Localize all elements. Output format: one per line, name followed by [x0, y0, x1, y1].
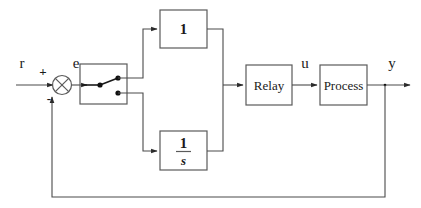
- wire-feedback: [52, 85, 385, 197]
- relay-block-label: Relay: [254, 78, 285, 93]
- wire-upper-branch: [118, 29, 157, 78]
- label-sum-plus: +: [39, 64, 46, 79]
- integrator-block[interactable]: 1 s: [160, 131, 207, 170]
- integrator-numerator-label: 1: [180, 135, 188, 151]
- label-output-y: y: [388, 55, 396, 71]
- relay-block[interactable]: Relay: [246, 65, 292, 105]
- wire-branch-merge: [207, 29, 243, 151]
- wire-output-y: [367, 84, 410, 87]
- label-sum-minus: -: [47, 91, 51, 106]
- label-control-u: u: [301, 55, 309, 71]
- block-diagram-svg: 1 1 s Relay Process: [0, 0, 421, 208]
- integrator-denominator-label: s: [180, 153, 186, 168]
- label-error-e: e: [73, 55, 80, 71]
- label-reference-r: r: [20, 55, 25, 71]
- summing-junction: [53, 76, 72, 95]
- block-diagram-canvas: 1 1 s Relay Process: [0, 0, 421, 208]
- switch-pivot-dot: [97, 82, 102, 87]
- switch-block[interactable]: [80, 64, 127, 104]
- wire-lower-branch: [118, 93, 157, 151]
- proportional-block-label: 1: [180, 21, 188, 37]
- proportional-block[interactable]: 1: [160, 10, 207, 48]
- process-block[interactable]: Process: [320, 65, 367, 105]
- process-block-label: Process: [324, 78, 364, 93]
